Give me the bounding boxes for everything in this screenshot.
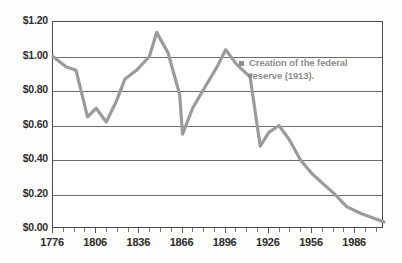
x-axis-minor-tick: [257, 228, 258, 232]
x-axis-major-tick: [95, 228, 96, 233]
x-axis-major-tick: [52, 228, 53, 233]
x-axis-minor-tick: [117, 228, 118, 232]
annotation-federal-reserve: Creation of the federal reserve (1913).: [239, 57, 399, 83]
annotation-line-1: Creation of the federal: [249, 57, 348, 70]
x-axis-minor-tick: [84, 228, 85, 232]
x-axis-minor-tick: [322, 228, 323, 232]
x-axis-major-tick: [138, 228, 139, 233]
x-axis-minor-tick: [333, 228, 334, 232]
x-axis-minor-tick: [149, 228, 150, 232]
y-axis-tick-label: $1.20: [4, 14, 48, 26]
y-axis-tick-label: $0.20: [4, 187, 48, 199]
x-axis-minor-tick: [214, 228, 215, 232]
x-axis-major-tick: [311, 228, 312, 233]
y-axis-tick-label: $0.60: [4, 118, 48, 130]
annotation-line-2: reserve (1913).: [249, 70, 348, 83]
x-axis-minor-tick: [192, 228, 193, 232]
x-axis-major-tick: [268, 228, 269, 233]
x-axis-minor-tick: [279, 228, 280, 232]
x-axis-minor-tick: [106, 228, 107, 232]
x-axis-minor-tick: [300, 228, 301, 232]
x-axis-minor-tick: [203, 228, 204, 232]
clipped-title-sliver: [0, 0, 402, 7]
annotation-square-marker-icon: [239, 61, 244, 66]
x-axis-minor-tick: [365, 228, 366, 232]
chart-figure: $0.00$0.20$0.40$0.60$0.80$1.00$1.20 1776…: [0, 0, 402, 263]
x-axis-minor-tick: [63, 228, 64, 232]
x-axis-minor-tick: [289, 228, 290, 232]
x-axis-major-tick: [354, 228, 355, 233]
series-line-dollar-purchasing-power: [53, 22, 384, 229]
x-axis-minor-tick: [246, 228, 247, 232]
annotation-text-block: Creation of the federal reserve (1913).: [249, 57, 348, 83]
x-axis-minor-tick: [74, 228, 75, 232]
y-axis-tick-label: $0.80: [4, 83, 48, 95]
x-axis-minor-tick: [160, 228, 161, 232]
x-axis-minor-tick: [235, 228, 236, 232]
x-axis-major-tick: [225, 228, 226, 233]
x-axis-minor-tick: [128, 228, 129, 232]
x-axis-tick-label: 1986: [324, 236, 384, 248]
x-axis-minor-tick: [343, 228, 344, 232]
y-axis-tick-label: $1.00: [4, 49, 48, 61]
x-axis-minor-tick: [171, 228, 172, 232]
x-axis-major-tick: [182, 228, 183, 233]
plot-area: [52, 21, 383, 228]
y-axis-tick-label: $0.40: [4, 152, 48, 164]
y-axis-tick-label: $0.00: [4, 221, 48, 233]
x-axis-minor-tick: [376, 228, 377, 232]
